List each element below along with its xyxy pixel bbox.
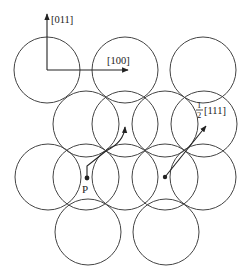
atom-circles: [14, 37, 237, 265]
atom-circle: [171, 91, 237, 157]
atom-circle: [15, 144, 81, 210]
origin-dot: [163, 175, 167, 179]
atom-circle: [170, 37, 236, 103]
atom-circle: [55, 199, 121, 265]
burgers-direction-label: [111]: [204, 105, 226, 116]
burgers-vector-arrow: [165, 126, 206, 177]
point-p-dot: [85, 176, 90, 181]
atom-circle: [170, 144, 236, 210]
fraction-denominator: 2: [197, 110, 201, 120]
crystal-packing-diagram: [011] [100] P 1 2 [111]: [0, 0, 249, 278]
fraction-numerator: 1: [197, 100, 201, 110]
atom-circle: [133, 199, 199, 265]
axis-011-label: [011]: [51, 14, 73, 25]
point-p-label: P: [82, 183, 88, 195]
atom-circle: [92, 91, 158, 157]
axis-100-label: [100]: [107, 55, 130, 66]
